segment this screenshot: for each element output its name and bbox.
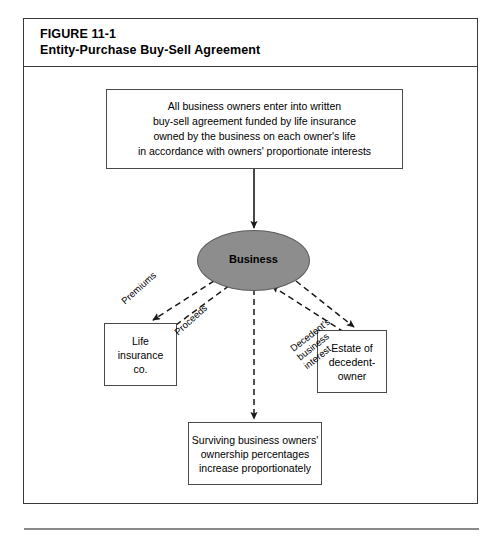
- agreement-box: All business owners enter into written b…: [106, 89, 403, 169]
- agreement-line-2: buy-sell agreement funded by life insura…: [153, 114, 356, 129]
- survivors-line-1: Surviving business owners': [192, 433, 318, 447]
- agreement-line-1: All business owners enter into written: [168, 99, 341, 114]
- survivors-line-3: increase proportionately: [199, 461, 311, 475]
- life-insurance-line-2: insurance: [118, 348, 164, 362]
- life-insurance-line-1: Life: [132, 334, 149, 348]
- business-ellipse: Business: [197, 230, 310, 291]
- figure-header: FIGURE 11-1 Entity-Purchase Buy-Sell Agr…: [24, 19, 477, 67]
- agreement-line-3: owned by the business on each owner's li…: [153, 129, 355, 144]
- business-label: Business: [229, 253, 278, 265]
- life-insurance-line-3: co.: [133, 362, 147, 376]
- figure-title: Entity-Purchase Buy-Sell Agreement: [40, 42, 477, 58]
- figure-frame: FIGURE 11-1 Entity-Purchase Buy-Sell Agr…: [23, 18, 478, 504]
- edge-decedent-interest: [272, 286, 344, 332]
- agreement-line-4: in accordance with owners' proportionate…: [138, 144, 371, 159]
- figure-number: FIGURE 11-1: [40, 26, 477, 42]
- life-insurance-box: Life insurance co.: [104, 323, 177, 386]
- survivors-line-2: ownership percentages: [201, 447, 310, 461]
- survivors-box: Surviving business owners' ownership per…: [188, 422, 322, 485]
- diagram-canvas: All business owners enter into written b…: [24, 67, 479, 504]
- estate-line-3: owner: [338, 369, 367, 383]
- estate-line-2: decedent-: [329, 355, 376, 369]
- bottom-rule: [24, 528, 479, 530]
